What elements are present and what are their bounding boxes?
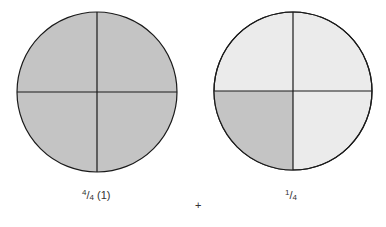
numerator: 1 [285,188,289,197]
right-fraction-label: 1/4 [285,188,297,202]
fraction-diagram [0,0,386,227]
denominator: 4 [293,193,297,202]
right-circle [214,12,372,170]
left-circle [17,12,177,172]
denominator: 4 [90,193,94,202]
numerator: 4 [82,188,86,197]
whole-value: (1) [97,189,110,201]
plus-operator: + [195,199,201,211]
left-fraction-label: 4/4 (1) [82,188,110,202]
shaded-quadrant [214,91,293,170]
